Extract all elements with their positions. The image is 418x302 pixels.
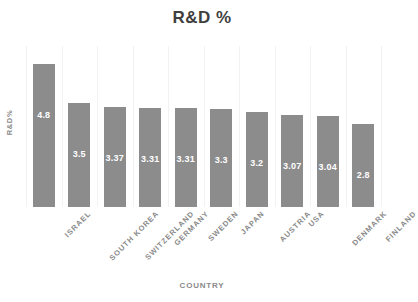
bar-value-label: 4.8: [37, 110, 50, 120]
bar-slot: 3.3: [204, 46, 240, 207]
bar[interactable]: 3.3: [210, 109, 232, 207]
bar[interactable]: 3.31: [139, 108, 161, 207]
x-tick-label: DENMARK: [350, 209, 388, 247]
bar-slot: 3.04: [310, 46, 346, 207]
y-axis-title: R&D%: [5, 101, 14, 145]
bar-slot: 3.07: [275, 46, 311, 207]
x-axis-tick-labels: ISRAELSOUTH KOREASWITZERLANDGERMANYSWEDE…: [26, 207, 381, 269]
bar-slot: 3.31: [133, 46, 169, 207]
bar-slot: 3.31: [168, 46, 204, 207]
x-tick-label: JAPAN: [239, 209, 266, 236]
bar[interactable]: 3.07: [281, 115, 303, 207]
bar-slot: 3.5: [62, 46, 98, 207]
plot-area: 4.83.53.373.313.313.33.23.073.042.8: [26, 46, 381, 207]
x-tick-label: ISRAEL: [63, 209, 93, 239]
bar-value-label: 3.31: [141, 154, 159, 164]
bar-value-label: 3.2: [250, 158, 263, 168]
bar-value-label: 3.07: [283, 161, 301, 171]
bars-layer: 4.83.53.373.313.313.33.23.073.042.8: [26, 46, 381, 207]
bar[interactable]: 2.8: [352, 124, 374, 207]
gridline: [381, 46, 382, 207]
chart-title: R&D %: [0, 8, 404, 28]
bar[interactable]: 3.2: [246, 112, 268, 207]
bar-value-label: 3.5: [73, 149, 86, 159]
bar-value-label: 3.37: [106, 153, 124, 163]
bar-value-label: 2.8: [357, 170, 370, 180]
bar-slot: 4.8: [26, 46, 62, 207]
x-axis-title: COUNTRY: [0, 281, 404, 290]
bar-slot: 3.37: [97, 46, 133, 207]
bar[interactable]: 3.31: [175, 108, 197, 207]
x-tick-label: AUSTRIA: [278, 209, 313, 244]
bar[interactable]: 3.04: [317, 116, 339, 207]
bar[interactable]: 3.5: [68, 103, 90, 207]
bar-value-label: 3.31: [177, 154, 195, 164]
bar-value-label: 3.3: [215, 155, 228, 165]
x-tick-label: SWEDEN: [206, 209, 240, 243]
bar[interactable]: 3.37: [104, 107, 126, 207]
bar[interactable]: 4.8: [33, 64, 55, 207]
bar-slot: 3.2: [239, 46, 275, 207]
bar-slot: 2.8: [346, 46, 382, 207]
bar-value-label: 3.04: [319, 162, 337, 172]
x-tick-label: FINLAND: [384, 209, 418, 244]
